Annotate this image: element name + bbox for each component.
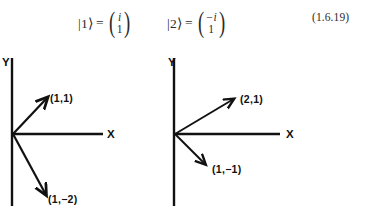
equation-number: (1.6.19) (312, 11, 349, 23)
left-vector-1-1 (13, 99, 46, 134)
ket-2-column-vector: ( −i 1 ) (196, 6, 227, 40)
right-vector-label-1-minus1: (1,−1) (212, 163, 242, 175)
ket-1-vector-entries: i 1 (116, 11, 124, 36)
left-diagram: Y X (1,1) (1,−2) (0, 46, 160, 206)
left-x-axis-label: X (107, 128, 115, 140)
right-y-axis-label: Y (168, 56, 176, 68)
ket-2-entry-top: −i (206, 11, 217, 23)
equation-row: |1⟩ = ( i 1 ) |2⟩ = ( −i 1 ) (1.6.19) (0, 0, 371, 46)
ket-2-vector-entries: −i 1 (205, 11, 218, 36)
right-paren-icon: ) (124, 7, 130, 37)
diagram-area: Y X (1,1) (1,−2) Y X (2,1) (1,−1) (0, 46, 371, 206)
right-diagram: Y X (2,1) (1,−1) (160, 46, 370, 206)
left-vector-label-1-1: (1,1) (50, 92, 73, 104)
ket-2-equals-sign: = (185, 15, 193, 31)
right-vector-label-2-1: (2,1) (240, 93, 263, 105)
left-y-axis-label: Y (2, 56, 10, 68)
ket-2-expression: |2⟩ = ( −i 1 ) (167, 6, 227, 40)
right-vector-2-1 (175, 100, 232, 134)
ket-1-label: |1⟩ (78, 15, 93, 32)
right-x-axis-label: X (286, 128, 294, 140)
ket-2-entry-bottom: 1 (208, 23, 214, 35)
ket-2-label: |2⟩ (167, 15, 182, 32)
right-vector-1-minus1 (175, 134, 204, 163)
right-paren-icon: ) (219, 7, 225, 37)
ket-1-column-vector: ( i 1 ) (107, 6, 133, 40)
left-vector-label-1-minus2: (1,−2) (48, 193, 78, 205)
left-vector-1-minus2 (13, 134, 45, 193)
left-paren-icon: ( (109, 7, 115, 37)
ket-1-equals-sign: = (96, 15, 104, 31)
ket-1-expression: |1⟩ = ( i 1 ) (78, 6, 132, 40)
ket-1-entry-top: i (118, 11, 121, 23)
ket-1-entry-bottom: 1 (117, 23, 123, 35)
left-paren-icon: ( (198, 7, 204, 37)
